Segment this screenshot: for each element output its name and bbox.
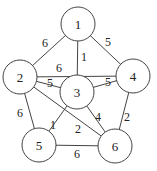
edge-weight-2-5: 6 [17,106,23,120]
node-label: 2 [17,70,24,85]
node-label: 5 [36,138,43,153]
node-3: 3 [60,75,94,109]
weighted-graph-diagram: 615655621426 123456 [0,0,157,171]
edge-weight-2-4: 6 [56,61,62,75]
edge-weight-1-4: 5 [105,35,111,49]
edge-weight-5-6: 6 [74,147,80,161]
node-6: 6 [98,129,132,163]
nodes-layer: 123456 [3,7,150,163]
node-4: 4 [116,59,150,93]
edge-weight-3-4: 5 [105,75,111,89]
node-label: 1 [75,17,82,32]
node-label: 4 [130,69,137,84]
node-5: 5 [22,128,56,162]
node-1: 1 [61,7,95,41]
edge-weight-2-3: 5 [47,76,53,90]
edge-weight-1-3: 1 [81,50,87,64]
edge-weight-3-6: 4 [95,110,101,124]
edge-weight-3-5: 1 [50,118,56,132]
node-label: 3 [74,85,81,100]
edge-weight-4-6: 2 [124,110,130,124]
node-label: 6 [112,139,119,154]
edge-weight-1-2: 6 [42,36,48,50]
edge-weight-2-6: 2 [75,122,81,136]
node-2: 2 [3,60,37,94]
